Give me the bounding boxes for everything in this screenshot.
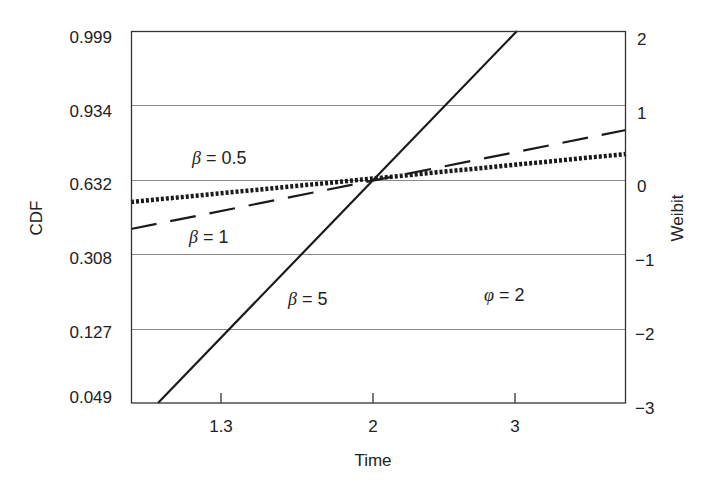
weibull-probability-chart: 1.3 2 3 Time 0.999 0.934 0.632 0.308 0.1… — [0, 0, 709, 491]
gridlines — [131, 106, 626, 330]
x-axis-title: Time — [354, 451, 391, 470]
y-left-tick-0.632: 0.632 — [69, 175, 112, 194]
y-left-tick-0.934: 0.934 — [69, 102, 112, 121]
x-tick-label-2: 2 — [368, 417, 377, 436]
series-beta-1-dashed — [131, 130, 626, 229]
beta-symbol: β — [287, 289, 297, 309]
y-left-axis-title: CDF — [27, 201, 46, 236]
y-right-tick-0: 0 — [637, 177, 646, 196]
plot-frame — [132, 32, 626, 404]
y-right-tick-neg2: −2 — [635, 325, 654, 344]
annotation-phi: φ = 2 — [484, 285, 525, 305]
annotation-value: = 1 — [198, 227, 229, 247]
annotation-value: = 5 — [297, 289, 328, 309]
annotation-value: = 0.5 — [201, 148, 247, 168]
x-tick-label-3: 3 — [510, 417, 519, 436]
x-tick-label-1.3: 1.3 — [209, 417, 233, 436]
y-left-tick-0.127: 0.127 — [69, 323, 112, 342]
series-beta-5-solid — [158, 31, 517, 403]
y-right-tick-neg1: −1 — [635, 251, 654, 270]
beta-symbol: β — [188, 227, 198, 247]
series-lines — [131, 31, 626, 403]
annotation-beta-1: β = 1 — [188, 227, 229, 247]
y-left-tick-0.999: 0.999 — [69, 28, 112, 47]
y-left-tick-0.049: 0.049 — [69, 388, 112, 407]
y-right-tick-2: 2 — [637, 30, 646, 49]
phi-symbol: φ — [484, 285, 494, 305]
y-left-tick-0.308: 0.308 — [69, 249, 112, 268]
y-right-tick-neg3: −3 — [635, 399, 654, 418]
annotation-value: = 2 — [494, 285, 525, 305]
y-right-axis-title: Weibit — [668, 194, 687, 241]
beta-symbol: β — [191, 148, 201, 168]
annotation-beta-5: β = 5 — [287, 289, 328, 309]
x-ticks — [221, 393, 515, 403]
annotation-beta-0.5: β = 0.5 — [191, 148, 247, 168]
y-right-tick-1: 1 — [637, 104, 646, 123]
